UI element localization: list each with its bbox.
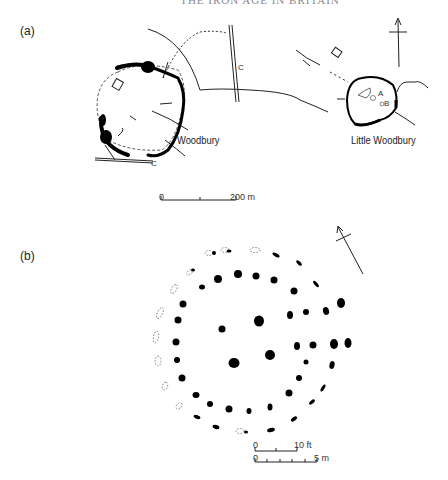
marker-a: A bbox=[378, 89, 383, 98]
post-holes bbox=[173, 249, 352, 433]
scale-m-end: 5 m bbox=[314, 453, 329, 463]
north-arrow-b-icon bbox=[336, 226, 363, 274]
uncertain-post-holes bbox=[152, 248, 260, 434]
panel-b-label: (b) bbox=[20, 249, 35, 263]
woodbury-rampart bbox=[101, 64, 184, 155]
marker-c-bottom: C bbox=[151, 159, 157, 168]
scale-bar-10ft bbox=[255, 447, 297, 451]
scale-a-start: 0 bbox=[159, 192, 164, 202]
scale-bar-200m bbox=[161, 196, 236, 200]
scale-bar-5m bbox=[255, 458, 317, 462]
north-arrow-icon bbox=[389, 18, 407, 67]
scale-m-start: 0 bbox=[253, 453, 258, 463]
marker-b: B bbox=[384, 99, 389, 108]
little-woodbury-plan bbox=[250, 47, 428, 125]
site-label-little-woodbury: Little Woodbury bbox=[351, 134, 416, 146]
site-plans-drawing bbox=[0, 0, 448, 480]
marker-c-road: C bbox=[238, 63, 244, 72]
scale-ft-start: 0 bbox=[253, 440, 258, 450]
scale-a-end: 200 m bbox=[230, 192, 255, 202]
site-label-woodbury: Woodbury bbox=[177, 134, 219, 146]
scale-ft-end: 10 ft bbox=[294, 440, 312, 450]
woodbury-rampart-knots bbox=[100, 61, 155, 144]
